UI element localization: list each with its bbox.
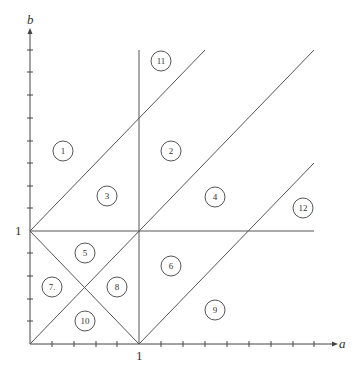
region-10: 10 xyxy=(75,311,95,331)
svg-text:4: 4 xyxy=(213,192,218,202)
svg-text:7.: 7. xyxy=(49,282,56,292)
line-b-equals-a-minus-1 xyxy=(139,163,314,344)
region-12: 12 xyxy=(293,198,313,218)
b-axis-arrow-icon xyxy=(28,28,33,34)
line-b-equals-a xyxy=(30,50,314,344)
region-4: 4 xyxy=(205,187,225,207)
region-7: 7. xyxy=(42,277,62,297)
svg-text:1: 1 xyxy=(61,146,66,156)
b-axis-label: b xyxy=(27,12,34,27)
region-8: 8 xyxy=(107,277,127,297)
region-diagram: b a 1 1 1 2 3 4 5 6 7. xyxy=(0,0,361,372)
svg-text:8: 8 xyxy=(115,282,120,292)
b-unit-label: 1 xyxy=(15,223,22,238)
region-9: 9 xyxy=(205,300,225,320)
region-5: 5 xyxy=(75,243,95,263)
region-2: 2 xyxy=(161,141,181,161)
region-3: 3 xyxy=(97,186,117,206)
a-unit-label: 1 xyxy=(136,348,143,363)
svg-text:11: 11 xyxy=(157,56,166,66)
svg-text:9: 9 xyxy=(213,305,218,315)
line-b-equals-a-plus-1 xyxy=(30,50,205,231)
region-1: 1 xyxy=(53,141,73,161)
svg-text:5: 5 xyxy=(83,248,88,258)
region-11: 11 xyxy=(151,51,171,71)
a-axis-arrow-icon xyxy=(332,342,338,347)
boundary-lines xyxy=(30,50,314,344)
svg-text:10: 10 xyxy=(81,316,91,326)
region-6: 6 xyxy=(161,256,181,276)
svg-text:6: 6 xyxy=(169,261,174,271)
svg-text:3: 3 xyxy=(105,191,110,201)
a-axis-label: a xyxy=(339,336,346,351)
svg-text:12: 12 xyxy=(299,203,308,213)
svg-text:2: 2 xyxy=(169,146,174,156)
